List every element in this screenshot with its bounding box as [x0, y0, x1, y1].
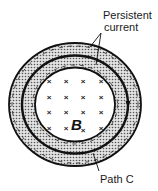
superconducting-ring — [9, 43, 141, 166]
field-cross-icon: × — [99, 124, 104, 133]
field-cross-icon: × — [81, 77, 86, 86]
persistent-current-label-line1: Persistent — [103, 9, 152, 21]
field-cross-icon: × — [64, 108, 69, 117]
field-cross-icon: × — [64, 77, 69, 86]
field-label: B — [71, 116, 82, 133]
field-cross-icon: × — [47, 93, 52, 102]
field-cross-icon: × — [81, 93, 86, 102]
field-cross-icon: × — [47, 108, 52, 117]
field-cross-icon: × — [99, 77, 104, 86]
field-cross-icon: × — [47, 77, 52, 86]
field-cross-icon: × — [99, 108, 104, 117]
field-cross-icon: × — [64, 124, 69, 133]
field-cross-icon: × — [64, 93, 69, 102]
path-c-label: Path C — [100, 173, 134, 185]
field-cross-icon: × — [99, 93, 104, 102]
persistent-current-label-line2: current — [104, 21, 138, 33]
superconducting-ring-diagram: × × × × × × × × × × × × × × × × B Persis… — [0, 0, 158, 191]
field-cross-icon: × — [47, 124, 52, 133]
